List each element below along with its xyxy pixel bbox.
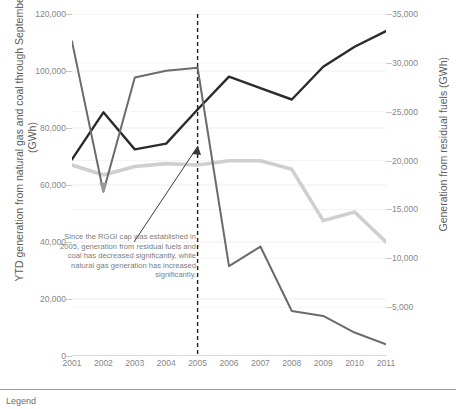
y-axis-right-tick-mark <box>386 112 392 113</box>
y-axis-right-tick-label: 20,000 <box>392 156 418 166</box>
x-axis-tick-label: 2011 <box>368 358 404 368</box>
y-axis-left-tick-mark <box>66 356 72 357</box>
y-axis-left-tick-label: 100,000 <box>35 66 66 76</box>
y-axis-right-title: Generation from residual fuels (GWh) <box>437 0 450 294</box>
legend-title: Legend <box>6 396 36 406</box>
y-axis-right-tick-mark <box>386 63 392 64</box>
series-line-coal <box>72 161 386 242</box>
series-line-natural-gas <box>72 31 386 159</box>
rggi-annotation-text: Since the RGGI cap was established in 20… <box>56 232 196 280</box>
y-axis-right-ticks: 5,00010,00015,00020,00025,00030,00035,00… <box>386 0 430 376</box>
y-axis-right-tick-label: 35,000 <box>392 9 418 19</box>
legend-strip: Legend <box>0 376 456 409</box>
x-axis-ticks: 2001200220032004200520062007200820092010… <box>0 358 456 376</box>
dual-axis-line-chart: YTD generation from natural gas and coal… <box>0 0 456 376</box>
y-axis-right-tick-label: 25,000 <box>392 107 418 117</box>
legend-divider <box>0 389 456 390</box>
y-axis-right-tick-label: 10,000 <box>392 253 418 263</box>
residual-dip-marker <box>99 183 107 193</box>
y-axis-left-ticks: 020,00040,00060,00080,000100,000120,000 <box>28 0 72 376</box>
y-axis-right-tick-mark <box>386 14 392 15</box>
y-axis-left-tick-label: 120,000 <box>35 9 66 19</box>
y-axis-right-tick-label: 30,000 <box>392 58 418 68</box>
y-axis-right-tick-mark <box>386 209 392 210</box>
y-axis-right-tick-mark <box>386 161 392 162</box>
plot-area <box>72 14 386 356</box>
y-axis-right-tick-label: 15,000 <box>392 204 418 214</box>
chart-screenshot: YTD generation from natural gas and coal… <box>0 0 456 409</box>
y-axis-right-tick-mark <box>386 258 392 259</box>
y-axis-right-tick-mark <box>386 307 392 308</box>
y-axis-left-tick-label: 80,000 <box>40 123 66 133</box>
y-axis-right-tick-label: 5,000 <box>392 302 413 312</box>
y-axis-left-tick-label: 20,000 <box>40 294 66 304</box>
plot-svg <box>72 14 386 356</box>
y-axis-left-tick-label: 60,000 <box>40 180 66 190</box>
